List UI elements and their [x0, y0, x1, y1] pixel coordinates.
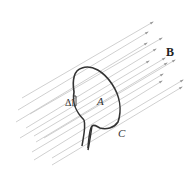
field-line	[32, 74, 163, 152]
field-line	[18, 32, 148, 110]
field-label: B	[166, 45, 174, 59]
lead-wire-left	[82, 120, 85, 146]
arrowhead-icon	[172, 59, 176, 62]
field-line	[30, 38, 162, 114]
arrowhead-icon	[153, 48, 157, 51]
field-line	[22, 22, 153, 98]
field-line	[26, 49, 156, 128]
arrowhead-icon	[146, 60, 150, 63]
field-line	[16, 43, 147, 122]
field-line	[44, 60, 175, 138]
arrowhead-icon	[150, 21, 154, 24]
arrowhead-icon	[145, 31, 149, 34]
field-line	[52, 80, 183, 158]
arrowhead-icon	[180, 79, 184, 82]
line-element-label: Δl	[65, 97, 74, 108]
area-label: A	[96, 95, 104, 107]
arrowhead-icon	[159, 38, 163, 41]
arrowhead-icon	[159, 80, 163, 83]
arrowhead-icon	[144, 42, 148, 45]
magnetic-flux-diagram: Δl A C B	[0, 0, 194, 177]
curve-label: C	[118, 127, 126, 139]
arrowhead-icon	[179, 86, 183, 89]
field-line	[34, 81, 162, 160]
arrowhead-icon	[160, 73, 164, 76]
magnetic-field-lines	[16, 21, 184, 165]
closed-loop-curve	[73, 67, 120, 148]
